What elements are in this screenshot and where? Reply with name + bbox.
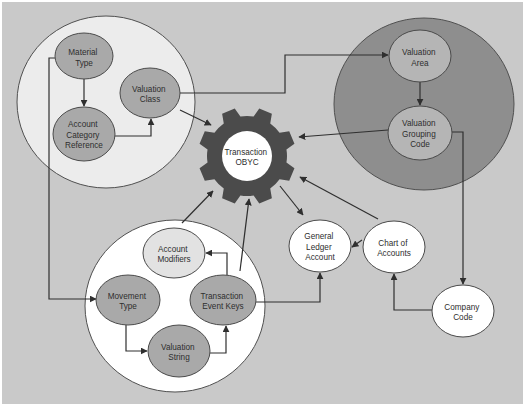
node-label: General Ledger Account (304, 232, 335, 262)
node-company-code: Company Code (432, 285, 494, 337)
node-valuation-area: Valuation Area (389, 30, 451, 82)
node-material-type: Material Type (55, 33, 113, 79)
node-valuation-class: Valuation Class (120, 68, 180, 118)
node-general-ledger-account: General Ledger Account (289, 220, 351, 272)
node-chart-of-accounts: Chart of Accounts (363, 221, 425, 273)
node-account-category-reference: Account Category Reference (53, 107, 115, 161)
obyc-diagram: Transaction OBYC Material Type Account C… (0, 0, 532, 415)
node-transaction-event-keys: Transaction Event Keys (190, 275, 256, 325)
node-account-modifiers: Account Modifiers (143, 228, 205, 278)
node-label: Account Modifiers (157, 245, 190, 265)
node-label: Chart of Accounts (377, 239, 411, 259)
node-label: Transaction Event Keys (201, 292, 246, 312)
node-valuation-string: Valuation String (148, 325, 210, 377)
node-label: Account Category Reference (65, 120, 103, 150)
node-valuation-grouping-code: Valuation Grouping Code (388, 106, 452, 160)
node-movement-type: Movement Type (96, 275, 160, 325)
